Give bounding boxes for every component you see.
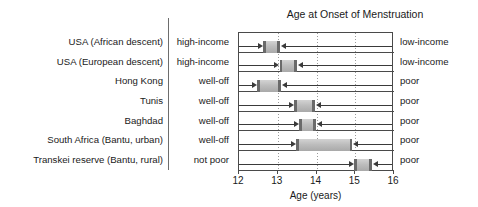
right-arrow-head-tunis [316,102,321,108]
bar-cap-start-usa-european-descent [280,60,283,72]
right-arrow-shaft-south-africa-bantu-urban [358,144,392,145]
poor-group-label-south-africa-bantu-urban: poor [400,130,478,150]
row-baseline-tunis [239,111,394,112]
bar-cap-start-transkei-reserve-bantu-rural [354,159,357,171]
chart-title: Age at Onset of Menstruation [232,8,478,20]
bar-cap-end-tunis [312,100,315,112]
right-arrow-head-hong-kong [282,82,287,88]
rich-group-label-baghdad: well-off [172,111,229,131]
x-tick-label-12: 12 [223,175,253,186]
left-arrow-shaft-south-africa-bantu-urban [239,144,291,145]
x-tick-label-16: 16 [378,175,408,186]
left-arrow-head-baghdad [294,121,299,127]
right-arrow-head-transkei-reserve-bantu-rural [373,161,378,167]
place-label-hong-kong: Hong Kong [0,71,163,91]
place-label-south-africa-bantu-urban: South Africa (Bantu, urban) [0,130,163,150]
x-tick-label-13: 13 [262,175,292,186]
right-arrow-head-baghdad [317,121,322,127]
left-arrow-shaft-usa-european-descent [239,65,275,66]
left-arrow-head-south-africa-bantu-urban [291,141,296,147]
rich-group-label-usa-african-descent: high-income [172,32,229,52]
row-baseline-usa-european-descent [239,71,394,72]
right-arrow-head-usa-african-descent [281,43,286,49]
x-tick-13 [277,170,278,174]
poor-group-label-transkei-reserve-bantu-rural: poor [400,150,478,170]
bar-cap-start-usa-african-descent [263,41,266,53]
poor-group-label-usa-european-descent: low-income [400,52,478,72]
right-arrow-shaft-transkei-reserve-bantu-rural [378,164,392,165]
row-baseline-baghdad [239,130,394,131]
poor-group-label-hong-kong: poor [400,71,478,91]
left-arrow-head-transkei-reserve-bantu-rural [349,161,354,167]
bar-cap-end-south-africa-bantu-urban [350,139,353,151]
rich-group-label-hong-kong: well-off [172,71,229,91]
left-arrow-shaft-usa-african-descent [239,46,258,47]
poor-group-label-tunis: poor [400,91,478,111]
rich-group-label-tunis: well-off [172,91,229,111]
bar-cap-end-usa-african-descent [277,41,280,53]
place-label-usa-european-descent: USA (European descent) [0,52,163,72]
poor-group-label-usa-african-descent: low-income [400,32,478,52]
bar-cap-end-usa-european-descent [294,60,297,72]
chart-figure: Age at Onset of Menstruation Age (years)… [0,0,478,207]
left-arrow-shaft-hong-kong [239,85,252,86]
x-tick-12 [238,170,239,174]
rich-group-label-usa-european-descent: high-income [172,52,229,72]
rich-group-label-south-africa-bantu-urban: well-off [172,130,229,150]
x-tick-label-15: 15 [339,175,369,186]
label-column-divider [168,18,169,170]
range-bar-south-africa-bantu-urban [296,139,352,151]
place-label-baghdad: Baghdad [0,111,163,131]
place-label-usa-african-descent: USA (African descent) [0,32,163,52]
right-arrow-shaft-tunis [321,105,392,106]
bar-cap-end-hong-kong [278,80,281,92]
left-arrow-shaft-baghdad [239,124,294,125]
poor-group-label-baghdad: poor [400,111,478,131]
bar-cap-start-tunis [294,100,297,112]
bar-cap-start-baghdad [299,119,302,131]
place-label-tunis: Tunis [0,91,163,111]
right-arrow-head-south-africa-bantu-urban [353,141,358,147]
x-axis-title: Age (years) [238,190,393,201]
right-arrow-shaft-usa-african-descent [286,46,392,47]
x-tick-14 [316,170,317,174]
range-bar-hong-kong [257,80,280,92]
bar-cap-end-transkei-reserve-bantu-rural [369,159,372,171]
left-arrow-head-hong-kong [252,82,257,88]
left-arrow-head-tunis [289,102,294,108]
bar-cap-start-south-africa-bantu-urban [296,139,299,151]
left-arrow-head-usa-african-descent [258,43,263,49]
bar-cap-end-baghdad [313,119,316,131]
right-arrow-shaft-baghdad [322,124,393,125]
rich-group-label-transkei-reserve-bantu-rural: not poor [172,150,229,170]
right-arrow-head-usa-european-descent [298,62,303,68]
left-arrow-shaft-transkei-reserve-bantu-rural [239,164,349,165]
x-tick-label-14: 14 [301,175,331,186]
right-arrow-shaft-hong-kong [287,85,392,86]
x-tick-16 [393,170,394,174]
place-label-transkei-reserve-bantu-rural: Transkei reserve (Bantu, rural) [0,150,163,170]
right-arrow-shaft-usa-european-descent [303,65,392,66]
left-arrow-head-usa-european-descent [274,62,279,68]
left-arrow-shaft-tunis [239,105,289,106]
bar-cap-start-hong-kong [257,80,260,92]
